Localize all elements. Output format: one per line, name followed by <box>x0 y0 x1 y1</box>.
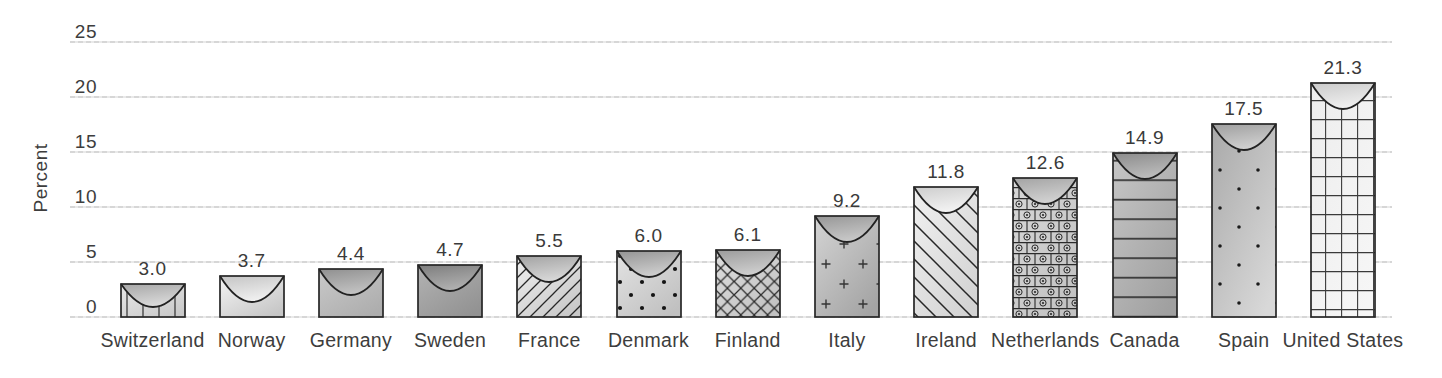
bar-value-label: 3.0 <box>139 258 167 280</box>
bar-italy <box>813 214 881 319</box>
bar-united-states <box>1309 81 1377 319</box>
x-category-label: Denmark <box>608 329 689 351</box>
y-tick-label: 0 <box>30 297 97 317</box>
y-tick-label: 20 <box>30 77 97 97</box>
bar-ireland <box>912 185 980 319</box>
bar-value-label: 4.7 <box>436 239 464 261</box>
gridline <box>70 41 1392 43</box>
bar-value-label: 14.9 <box>1125 127 1164 149</box>
x-category-label: Switzerland <box>100 329 204 351</box>
bar-netherlands <box>1011 176 1079 319</box>
bar-canada <box>1111 151 1179 319</box>
bar-france <box>515 254 583 319</box>
bar-sweden <box>416 263 484 319</box>
x-category-label: United States <box>1282 329 1403 351</box>
bar-value-label: 11.8 <box>927 161 965 183</box>
x-category-label: Italy <box>828 329 865 351</box>
x-category-label: Norway <box>218 329 286 351</box>
bar-value-label: 17.5 <box>1224 98 1263 120</box>
x-category-label: Germany <box>310 329 392 351</box>
bar-finland <box>714 248 782 319</box>
y-tick-label: 5 <box>30 242 97 262</box>
bar-denmark <box>615 249 683 319</box>
y-tick-label: 10 <box>30 187 97 207</box>
bar-value-label: 6.1 <box>734 224 762 246</box>
y-tick-label: 15 <box>30 132 97 152</box>
bar-value-label: 21.3 <box>1323 57 1362 79</box>
bar-chart: Percent 05101520253.0Switzerland3.7Norwa… <box>0 0 1442 378</box>
gridline <box>70 206 1392 208</box>
bar-value-label: 3.7 <box>238 250 266 272</box>
bar-value-label: 6.0 <box>635 225 663 247</box>
bar-switzerland <box>119 282 187 319</box>
bar-value-label: 12.6 <box>1026 152 1065 174</box>
y-tick-label: 25 <box>30 22 97 42</box>
bar-value-label: 4.4 <box>337 243 365 265</box>
bar-norway <box>218 274 286 319</box>
bar-value-label: 5.5 <box>535 230 563 252</box>
x-category-label: Canada <box>1109 329 1179 351</box>
x-category-label: Spain <box>1218 329 1269 351</box>
gridline <box>70 151 1392 153</box>
x-category-label: Sweden <box>414 329 486 351</box>
bar-germany <box>317 267 385 319</box>
x-category-label: France <box>518 329 581 351</box>
bar-value-label: 9.2 <box>833 190 861 212</box>
x-category-label: Finland <box>715 329 781 351</box>
x-category-label: Netherlands <box>991 329 1099 351</box>
bar-spain <box>1210 122 1278 319</box>
gridline <box>70 96 1392 98</box>
x-category-label: Ireland <box>915 329 977 351</box>
